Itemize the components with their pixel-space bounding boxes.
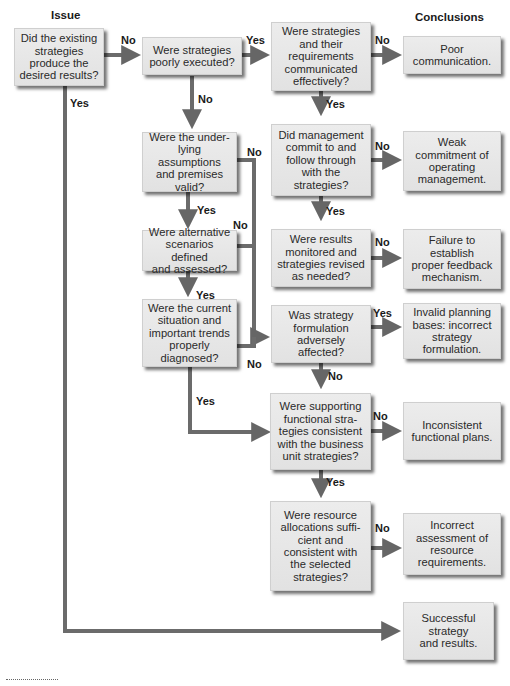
issue-poorly-executed: Were strategies poorly executed? [142,37,242,75]
edge-label-q10-no: No [373,410,388,422]
edge-label-q6-no: No [247,146,262,158]
issue-situation-diagnosed: Were the current situation and important… [142,299,237,367]
dotted-rule [6,679,58,680]
issue-existing-strategies-results: Did the existing strategies produce the … [14,28,104,86]
edge-label-q4-yes: Yes [326,205,345,217]
edge-label-q7-no: No [233,219,248,231]
edge-label-q4-no: No [375,140,390,152]
issue-formulation-affected: Was strategy formulation adversely affec… [271,305,371,363]
edge-label-q1-yes: Yes [70,97,89,109]
edge-label-q9-yes: Yes [373,307,392,319]
edge-label-q8-no: No [247,358,262,370]
conclusion-failure-feedback: Failure to establish proper feedback mec… [403,229,501,289]
edge-label-q3-yes: Yes [326,98,345,110]
edge-label-q3-no: No [375,34,390,46]
issue-heading: Issue [51,9,80,21]
edge-label-q10-yes: Yes [326,476,345,488]
edge-label-q8-yes: Yes [196,395,215,407]
edge-label-q7-yes: Yes [196,289,215,301]
edge-label-q2-no: No [198,93,213,105]
issue-management-commitment: Did management commit to and follow thro… [271,124,371,196]
diagnostic-flowchart: Issue Conclusions Did the existing strat… [0,0,510,686]
issue-results-monitored: Were results monitored and strategies re… [271,229,371,287]
conclusion-poor-communication: Poor communication. [403,36,501,74]
edge-label-q2-yes: Yes [246,34,265,46]
conclusions-heading: Conclusions [415,11,484,23]
conclusion-incorrect-resource-assessment: Incorrect assessment of resource require… [403,513,501,575]
edge-label-q5-no: No [375,236,390,248]
conclusion-weak-commitment: Weak commitment of operating management. [403,131,501,191]
issue-communicated-effectively: Were strategies and their requirements c… [271,22,371,91]
conclusion-invalid-planning-bases: Invalid planning bases: incorrect strate… [403,303,501,359]
issue-functional-strategies-consistent: Were supporting functional stra- tegies … [270,393,371,470]
conclusion-successful-strategy: Successful strategy and results. [403,602,494,660]
edge-label-q11-no: No [375,522,390,534]
edge-label-q9-no: No [328,370,343,382]
edge-label-q1-no: No [121,34,136,46]
edge-label-q6-yes: Yes [197,204,216,216]
issue-assumptions-valid: Were the under- lying assumptions and pr… [142,132,237,192]
conclusion-inconsistent-functional-plans: Inconsistent functional plans. [403,402,501,460]
issue-alternative-scenarios: Were alternative scenarios defined and a… [142,230,237,271]
issue-resource-allocations: Were resource allocations suffi- cient a… [270,501,371,591]
